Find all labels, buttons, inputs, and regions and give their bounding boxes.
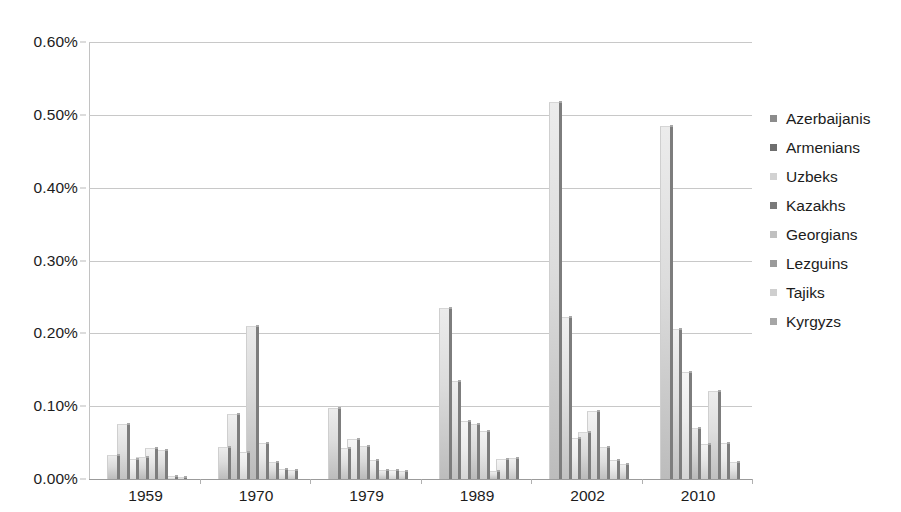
bar-top-edge xyxy=(458,380,461,382)
bar-side-shadow xyxy=(146,458,149,479)
y-tick-label: 0.00% xyxy=(34,470,78,488)
legend-label: Uzbeks xyxy=(786,169,838,185)
y-tick-mark xyxy=(80,333,86,334)
bar-side-shadow xyxy=(506,460,509,479)
bar-top-edge xyxy=(276,461,279,463)
bar-side-shadow xyxy=(405,472,408,479)
bar-top-edge xyxy=(449,307,452,309)
bar-side-shadow xyxy=(184,478,187,479)
legend-item[interactable]: Georgians xyxy=(770,220,901,249)
bar-side-shadow xyxy=(689,373,692,479)
bar-top-edge xyxy=(184,476,187,478)
bar-top-edge xyxy=(516,457,519,459)
bar-top-edge xyxy=(597,410,600,412)
bar-top-edge xyxy=(626,463,629,465)
bar-side-shadow xyxy=(127,425,130,479)
bar-side-shadow xyxy=(679,330,682,479)
bar-side-shadow xyxy=(357,440,360,479)
bar-side-shadow xyxy=(396,471,399,479)
x-tick-label: 2002 xyxy=(570,487,604,505)
legend-item[interactable]: Azerbaijanis xyxy=(770,104,901,133)
bar-top-edge xyxy=(386,469,389,471)
bar-top-edge xyxy=(718,390,721,392)
bar-top-edge xyxy=(497,470,500,472)
bar xyxy=(549,102,559,479)
legend-item[interactable]: Lezguins xyxy=(770,249,901,278)
bar-side-shadow xyxy=(737,463,740,479)
bar-top-edge xyxy=(468,420,471,422)
legend-item[interactable]: Tajiks xyxy=(770,278,901,307)
bar-group xyxy=(107,42,189,479)
bar-side-shadow xyxy=(117,456,120,479)
bar-top-edge xyxy=(679,328,682,330)
bar-side-shadow xyxy=(597,412,600,479)
legend-item[interactable]: Kyrgyzs xyxy=(770,307,901,336)
bar-top-edge xyxy=(348,447,351,449)
bar-top-edge xyxy=(136,458,139,460)
bar-group xyxy=(218,42,300,479)
y-tick-mark xyxy=(80,260,86,261)
plot-area xyxy=(89,42,752,479)
legend-swatch-icon xyxy=(770,260,777,267)
bar-side-shadow xyxy=(449,309,452,479)
chart-legend: AzerbaijanisArmeniansUzbeksKazakhsGeorgi… xyxy=(770,104,901,336)
bar xyxy=(439,308,449,479)
bar-top-edge xyxy=(506,458,509,460)
bar-side-shadow xyxy=(468,422,471,479)
bar xyxy=(218,447,228,479)
bar-side-shadow xyxy=(477,425,480,479)
y-tick-label: 0.30% xyxy=(34,252,78,270)
legend-swatch-icon xyxy=(770,173,777,180)
bar-side-shadow xyxy=(136,460,139,479)
bar-top-edge xyxy=(146,456,149,458)
bar-top-edge xyxy=(237,413,240,415)
y-tick-mark xyxy=(80,406,86,407)
bar-side-shadow xyxy=(559,103,562,479)
y-tick-label: 0.40% xyxy=(34,179,78,197)
bar-side-shadow xyxy=(276,463,279,479)
bar-side-shadow xyxy=(285,470,288,479)
legend-label: Kyrgyzs xyxy=(786,314,841,330)
bar-top-edge xyxy=(737,461,740,463)
y-tick-label: 0.60% xyxy=(34,33,78,51)
bar-top-edge xyxy=(405,470,408,472)
legend-item[interactable]: Kazakhs xyxy=(770,191,901,220)
bar-side-shadow xyxy=(626,465,629,479)
legend-swatch-icon xyxy=(770,231,777,238)
bar-side-shadow xyxy=(376,461,379,479)
y-tick-label: 0.10% xyxy=(34,397,78,415)
bar-side-shadow xyxy=(237,415,240,479)
legend-item[interactable]: Uzbeks xyxy=(770,162,901,191)
bar-top-edge xyxy=(689,371,692,373)
bar-side-shadow xyxy=(718,392,721,479)
bar-top-edge xyxy=(396,469,399,471)
legend-item[interactable]: Armenians xyxy=(770,133,901,162)
y-tick-mark xyxy=(80,187,86,188)
bar-top-edge xyxy=(559,101,562,103)
legend-swatch-icon xyxy=(770,202,777,209)
bar-top-edge xyxy=(228,446,231,448)
legend-swatch-icon xyxy=(770,318,777,325)
bar-side-shadow xyxy=(348,449,351,479)
bar-side-shadow xyxy=(569,318,572,479)
bar-side-shadow xyxy=(386,471,389,479)
x-tick-label: 1959 xyxy=(128,487,162,505)
bar-side-shadow xyxy=(367,447,370,479)
bar xyxy=(107,455,117,479)
bar-top-edge xyxy=(487,430,490,432)
bar-top-edge xyxy=(376,459,379,461)
bars-layer xyxy=(89,42,752,479)
bar-top-edge xyxy=(708,443,711,445)
x-tick-label: 1979 xyxy=(349,487,383,505)
bar-side-shadow xyxy=(247,453,250,479)
bar xyxy=(328,408,338,479)
bar-top-edge xyxy=(367,445,370,447)
bar-side-shadow xyxy=(727,444,730,479)
bar-top-edge xyxy=(477,423,480,425)
bar-side-shadow xyxy=(228,448,231,479)
legend-swatch-icon xyxy=(770,115,777,122)
x-tick-label: 1970 xyxy=(239,487,273,505)
y-axis: 0.00%0.10%0.20%0.30%0.40%0.50%0.60% xyxy=(0,0,88,512)
bar-top-edge xyxy=(727,442,730,444)
bar-top-edge xyxy=(338,407,341,409)
